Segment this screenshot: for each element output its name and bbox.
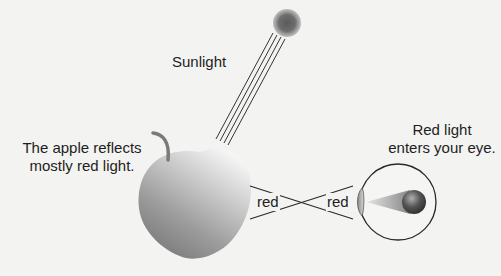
sunlight-text: Sunlight bbox=[172, 53, 226, 70]
apple-caption-line1: The apple reflects bbox=[17, 139, 147, 157]
sun-icon bbox=[273, 9, 301, 37]
sunlight-rays bbox=[216, 33, 285, 145]
apple-icon bbox=[139, 133, 251, 259]
red-right-text: red bbox=[327, 193, 349, 210]
red-label-left: red bbox=[256, 193, 280, 211]
eye-caption: Red light enters your eye. bbox=[383, 121, 501, 157]
apple-caption: The apple reflects mostly red light. bbox=[17, 139, 147, 175]
red-label-right: red bbox=[326, 193, 350, 211]
apple-caption-line2: mostly red light. bbox=[17, 157, 147, 175]
sunlight-label: Sunlight bbox=[172, 53, 226, 71]
apple-color-diagram: Sunlight The apple reflects mostly red l… bbox=[0, 0, 501, 276]
eye-caption-line1: Red light bbox=[383, 121, 501, 139]
eye-caption-line2: enters your eye. bbox=[383, 139, 501, 157]
eye-icon bbox=[358, 164, 437, 240]
red-left-text: red bbox=[257, 193, 279, 210]
